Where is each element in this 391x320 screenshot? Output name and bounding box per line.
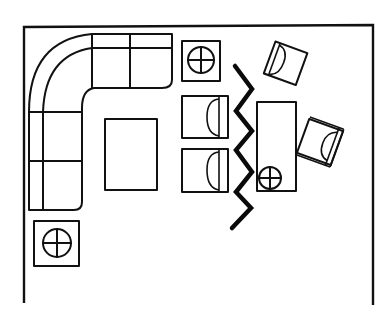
desk-chair: Desk chair: [296, 117, 344, 167]
coffee-table: Coffee table: [105, 119, 157, 190]
floor-plan: Room walls L-shaped sectional sofa Coffe…: [0, 0, 391, 320]
desk: Desk with lamp: [257, 102, 296, 191]
lamp-icon: [43, 229, 71, 257]
end-table-top: End table with lamp: [182, 41, 220, 81]
armchair-2: Armchair: [182, 149, 228, 192]
sectional-sofa: L-shaped sectional sofa: [29, 34, 172, 210]
lamp-icon: [259, 167, 281, 189]
armchair-1: Armchair: [182, 96, 228, 138]
room-walls: Room walls: [24, 25, 373, 305]
lounge-chair: Lounge chair: [264, 41, 308, 85]
lamp-icon: [188, 47, 214, 73]
screen-divider: Folding screen divider: [232, 66, 252, 228]
end-table-bottom: End table with lamp: [34, 221, 79, 266]
